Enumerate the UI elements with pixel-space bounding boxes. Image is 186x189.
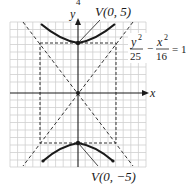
svg-text:y: y — [130, 35, 137, 49]
branch-end-dot — [41, 159, 44, 162]
origin-dot — [76, 91, 80, 95]
y-axis-label: y — [69, 7, 76, 21]
svg-text:−: − — [147, 42, 153, 54]
svg-text:x: x — [156, 35, 163, 49]
vertex-bottom-leader — [79, 144, 98, 166]
svg-text:2: 2 — [138, 33, 142, 42]
hyperbola-diagram: 4 y x V(0, 5) V(0, −5) y 2 25 − x 2 16 =… — [0, 0, 186, 189]
svg-text:= 1: = 1 — [172, 43, 186, 55]
vertex-bottom-label: V(0, −5) — [91, 169, 136, 184]
svg-text:25: 25 — [130, 50, 142, 62]
top-fragment: 4 — [76, 0, 81, 7]
x-axis-arrow-icon — [142, 90, 149, 96]
branch-end-dot — [111, 159, 114, 162]
y-axis-arrow-icon — [75, 18, 81, 25]
vertex-top-label: V(0, 5) — [95, 4, 131, 19]
svg-text:2: 2 — [164, 33, 168, 42]
equation: y 2 25 − x 2 16 = 1 — [128, 33, 186, 63]
x-axis-label: x — [149, 86, 156, 100]
svg-text:16: 16 — [156, 50, 168, 62]
